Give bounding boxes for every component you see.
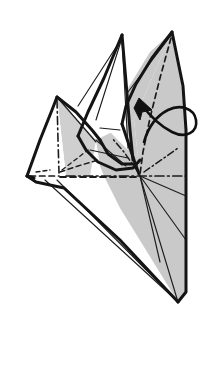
outline-pyramid-base-heavy — [27, 176, 34, 178]
origami-diagram-root: Origami folding step diagram Line-art or… — [0, 0, 208, 376]
origami-figure: Origami folding step diagram Line-art or… — [0, 0, 208, 376]
